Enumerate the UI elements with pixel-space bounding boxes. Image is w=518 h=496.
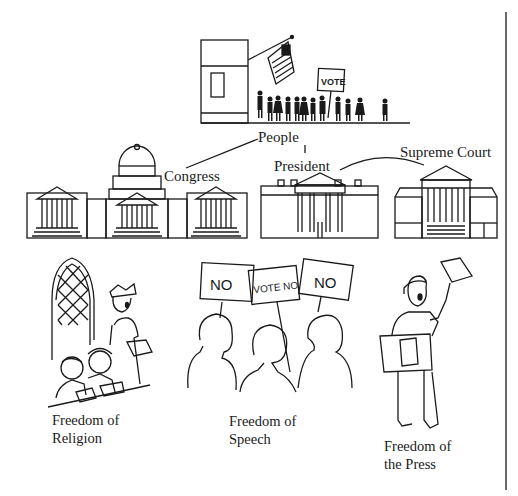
caption-line: Freedom of xyxy=(229,412,296,430)
president-label: President xyxy=(274,158,330,175)
caption-line: Religion xyxy=(52,429,119,447)
american-flag-icon xyxy=(248,36,294,85)
freedom-speech-caption: Freedom of Speech xyxy=(229,412,296,448)
speech-scene-icon: NO VOTE NO NO xyxy=(188,259,354,392)
religion-scene-icon xyxy=(48,258,152,407)
white-house-icon xyxy=(261,173,378,238)
caption-line: Freedom of xyxy=(52,411,119,429)
freedom-religion-caption: Freedom of Religion xyxy=(52,411,119,447)
voters-line-icon xyxy=(258,91,388,122)
caption-line: Speech xyxy=(229,430,296,448)
svg-text:VOTE NO: VOTE NO xyxy=(253,279,299,295)
supreme-court-label: Supreme Court xyxy=(400,144,491,161)
svg-text:NO: NO xyxy=(210,276,233,293)
people-congress-connector xyxy=(186,139,258,168)
supreme-court-icon xyxy=(395,166,497,238)
congress-label: Congress xyxy=(164,168,220,185)
caption-line: Freedom of xyxy=(384,437,451,455)
svg-text:NO: NO xyxy=(314,274,337,291)
svg-text:VOTE: VOTE xyxy=(321,77,346,87)
freedom-press-caption: Freedom of the Press xyxy=(384,437,451,473)
people-label: People xyxy=(258,129,299,146)
capitol-building-icon xyxy=(27,145,247,239)
caption-line: the Press xyxy=(384,455,451,473)
press-scene-icon xyxy=(380,258,472,428)
